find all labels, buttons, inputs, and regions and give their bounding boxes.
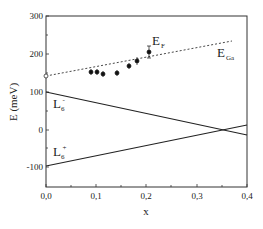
ega-dashed-line [46, 41, 232, 76]
ega-label: EGa [217, 45, 235, 62]
y-tick-label: 200 [30, 49, 44, 59]
y-tick-label: 100 [30, 87, 44, 97]
l6-plus-label: L6+ [53, 144, 66, 161]
x-tick-label: 0,0 [40, 191, 52, 201]
l6-minus-line [46, 92, 247, 135]
y-tick-label: 0 [39, 125, 44, 135]
l6-plus-line [46, 125, 247, 166]
x-tick-label: 0,3 [191, 191, 203, 201]
ef-label: EF [152, 33, 165, 50]
x-tick-label: 0,4 [241, 191, 253, 201]
y-tick-label: -100 [27, 162, 44, 172]
x-axis-title: x [143, 205, 149, 217]
x-tick-label: 0,1 [90, 191, 101, 201]
y-tick-label: 300 [30, 11, 44, 21]
l6-minus-label: L6- [53, 96, 65, 113]
y-axis-title: E (meV) [7, 83, 20, 122]
plot-frame [46, 16, 247, 187]
ega-start-marker [44, 74, 48, 78]
ef-data-points [89, 46, 151, 77]
chart: -100 0 100 200 300 0,0 0,1 0,2 0,3 0,4 E… [0, 0, 263, 229]
x-tick-label: 0,2 [140, 191, 151, 201]
